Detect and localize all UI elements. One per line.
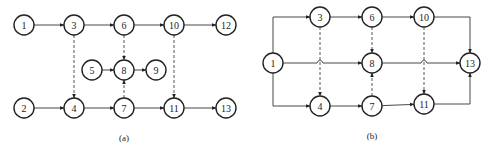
arrow-10-13 — [434, 17, 470, 53]
node-label: 13 — [465, 58, 475, 69]
node-label: 7 — [370, 101, 375, 112]
arrow-11-13 — [434, 73, 470, 104]
node-label: 13 — [221, 103, 231, 114]
network-diagrams: 13610125892471113 136108134711 (a) (b) — [0, 0, 485, 149]
node-label: 7 — [122, 103, 127, 114]
node-11: 11 — [414, 94, 434, 114]
node-label: 1 — [271, 58, 276, 69]
node-1: 1 — [14, 15, 34, 35]
node-2: 2 — [14, 98, 34, 118]
node-11: 11 — [164, 98, 184, 118]
network-diagram-b: 136108134711 — [263, 7, 480, 116]
node-1: 1 — [263, 53, 283, 73]
node-7: 7 — [114, 98, 134, 118]
node-label: 8 — [370, 58, 375, 69]
node-4: 4 — [64, 98, 84, 118]
node-13: 13 — [216, 98, 236, 118]
arrow-7-11 — [382, 104, 414, 105]
node-label: 6 — [122, 20, 127, 31]
node-13: 13 — [460, 53, 480, 73]
node-label: 6 — [370, 12, 375, 23]
node-label: 8 — [122, 65, 127, 76]
node-label: 3 — [318, 12, 323, 23]
node-5: 5 — [82, 60, 102, 80]
arrow-1-3 — [273, 17, 310, 53]
node-label: 12 — [221, 20, 231, 31]
node-label: 11 — [169, 103, 179, 114]
node-3: 3 — [64, 15, 84, 35]
node-4: 4 — [310, 96, 330, 116]
node-label: 3 — [72, 20, 77, 31]
node-8: 8 — [362, 53, 382, 73]
arrow-8-13 — [382, 60, 460, 63]
node-label: 10 — [169, 20, 179, 31]
node-label: 2 — [22, 103, 27, 114]
arrow-1-8 — [283, 60, 362, 63]
node-label: 11 — [419, 99, 429, 110]
node-6: 6 — [362, 7, 382, 27]
network-diagram-a: 13610125892471113 — [14, 15, 236, 118]
node-6: 6 — [114, 15, 134, 35]
node-7: 7 — [362, 96, 382, 116]
node-3: 3 — [310, 7, 330, 27]
node-label: 10 — [419, 12, 429, 23]
node-12: 12 — [216, 15, 236, 35]
arrow-1-4 — [273, 73, 310, 106]
node-9: 9 — [146, 60, 166, 80]
caption-a: (a) — [119, 133, 129, 143]
caption-b: (b) — [367, 131, 378, 141]
node-10: 10 — [164, 15, 184, 35]
nodes: 13610125892471113 — [14, 15, 236, 118]
node-label: 9 — [154, 65, 159, 76]
node-label: 4 — [72, 103, 77, 114]
node-10: 10 — [414, 7, 434, 27]
node-label: 4 — [318, 101, 323, 112]
node-8: 8 — [114, 60, 134, 80]
nodes: 136108134711 — [263, 7, 480, 116]
node-label: 5 — [90, 65, 95, 76]
node-label: 1 — [22, 20, 27, 31]
